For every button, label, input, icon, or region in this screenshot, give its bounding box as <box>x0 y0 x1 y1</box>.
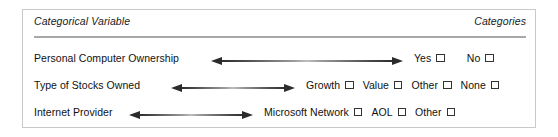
category-checkbox[interactable] <box>354 108 363 117</box>
category-checkbox[interactable] <box>398 108 407 117</box>
arrow-head-right-icon <box>242 111 253 119</box>
category-option-label: Other <box>411 79 438 91</box>
category-option[interactable]: Yes <box>414 52 445 64</box>
category-checkbox[interactable] <box>443 81 452 90</box>
category-option-label: No <box>467 52 481 64</box>
variable-label: Internet Provider <box>34 106 112 118</box>
table-row: Internet Provider Microsoft Network AOL … <box>23 103 537 125</box>
double-headed-arrow-icon <box>171 83 295 94</box>
category-option-label: Other <box>415 106 442 118</box>
arrow-shaft <box>220 60 394 62</box>
category-option-label: Yes <box>414 52 431 64</box>
category-options: Growth Value Other None <box>306 79 499 91</box>
category-option-label: Growth <box>306 79 340 91</box>
category-option[interactable]: Growth <box>306 79 354 91</box>
category-option-label: None <box>461 79 486 91</box>
category-options: Microsoft Network AOL Other <box>264 106 455 118</box>
column-header-categories: Categories <box>474 15 526 27</box>
header-divider <box>34 36 526 38</box>
category-option-label: Microsoft Network <box>264 106 349 118</box>
category-checkbox[interactable] <box>345 81 354 90</box>
category-checkbox[interactable] <box>436 54 445 63</box>
category-option-label: Value <box>363 79 389 91</box>
category-option[interactable]: Value <box>363 79 403 91</box>
table-row: Type of Stocks Owned Growth Value Other … <box>23 76 537 98</box>
category-checkbox[interactable] <box>485 54 494 63</box>
variable-label: Personal Computer Ownership <box>34 52 179 64</box>
category-checkbox[interactable] <box>394 81 403 90</box>
table-row: Personal Computer Ownership Yes No <box>23 49 537 71</box>
categorical-variable-table: Categorical Variable Categories Personal… <box>22 9 536 128</box>
category-option[interactable]: Other <box>411 79 451 91</box>
category-option[interactable]: None <box>461 79 500 91</box>
category-option[interactable]: Microsoft Network <box>264 106 362 118</box>
category-option[interactable]: No <box>467 52 494 64</box>
category-options: Yes No <box>414 52 494 64</box>
arrow-shaft <box>138 114 244 116</box>
category-option[interactable]: Other <box>415 106 455 118</box>
category-checkbox[interactable] <box>447 108 456 117</box>
category-checkbox[interactable] <box>491 81 500 90</box>
arrow-head-right-icon <box>284 84 295 92</box>
column-header-categorical-variable: Categorical Variable <box>34 15 130 27</box>
category-option-label: AOL <box>371 106 392 118</box>
double-headed-arrow-icon <box>129 110 253 121</box>
arrow-head-right-icon <box>392 57 403 65</box>
category-option[interactable]: AOL <box>371 106 406 118</box>
double-headed-arrow-icon <box>211 56 403 67</box>
arrow-shaft <box>180 87 286 89</box>
variable-label: Type of Stocks Owned <box>34 79 140 91</box>
table-header: Categorical Variable Categories <box>34 15 526 35</box>
